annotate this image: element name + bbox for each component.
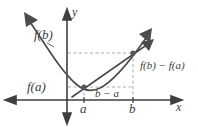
intersection-points (81, 50, 135, 89)
tick-label-a: a (80, 102, 87, 115)
secant-arrow-right (141, 39, 154, 51)
label-f-of-a: f(a) (27, 80, 46, 93)
y-axis-arrow-down (63, 113, 71, 124)
secant-line-figure: f(b) f(a) f(b) − f(a) b − a a b x y (0, 0, 198, 128)
point-at-a (81, 84, 86, 89)
y-axis-arrow-up (63, 9, 71, 20)
point-at-b (130, 50, 135, 55)
label-f-of-b: f(b) (34, 28, 53, 41)
x-axis-arrow-left (5, 96, 16, 104)
label-rise-f-of-b-minus-f-of-a: f(b) − f(a) (140, 60, 185, 71)
label-run-b-minus-a: b − a (95, 88, 119, 99)
axis-label-y: y (72, 6, 77, 18)
axis-label-x: x (176, 101, 181, 113)
leader-fb (47, 43, 54, 47)
tick-label-b: b (129, 102, 136, 115)
leader-lines (47, 43, 54, 47)
